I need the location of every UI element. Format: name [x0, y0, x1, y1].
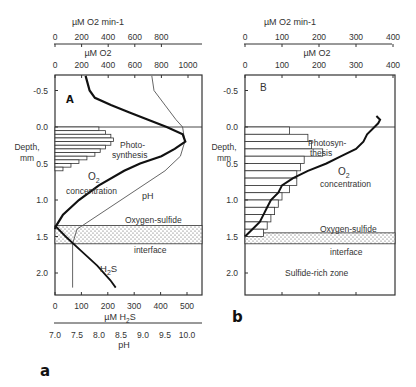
annotation-photosyn: Photosyn-: [308, 138, 346, 148]
annotation-o2: O2: [338, 166, 350, 179]
depth-tick-label: -0.5: [223, 86, 238, 96]
axis-tick-label: 10.0: [179, 330, 196, 340]
axis-tick-label: 9.5: [159, 330, 171, 340]
depth-tick-label: 0.5: [36, 159, 48, 169]
axis-tick-label: 400: [386, 60, 400, 70]
photosynthesis-bar: [55, 164, 71, 168]
photosynthesis-bar: [245, 156, 304, 163]
annotation-interface-bottom: interface: [330, 247, 363, 257]
annotation-concentration: concentration: [66, 186, 117, 196]
axis-tick-label: 800: [154, 32, 168, 42]
axis-tick-label: 400: [386, 32, 400, 42]
axis-label: µM O2: [84, 48, 111, 58]
axis-tick-label: 0: [243, 32, 248, 42]
annotation-ph: pH: [142, 191, 154, 201]
axis-tick-label: 400: [101, 32, 115, 42]
depth-tick-label: 0.0: [226, 122, 238, 132]
axis-tick-label: 0: [53, 60, 58, 70]
axis-tick-label: 8.5: [115, 330, 127, 340]
photosynthesis-bar: [245, 200, 278, 207]
depth-label-line2: mm: [20, 153, 34, 163]
depth-tick-label: -0.5: [33, 86, 48, 96]
depth-axis: -0.50.00.51.01.52.0: [223, 86, 248, 279]
axis-tick-label: 0: [53, 32, 58, 42]
annotation-interface-bottom: interface: [134, 245, 167, 255]
axis-tick-label: 600: [128, 32, 142, 42]
axis-tick-label: 1000: [179, 60, 198, 70]
annotation-o2: O2: [88, 171, 100, 184]
axis-label-h2s: µM H2S: [104, 312, 135, 324]
panel-b-letter: B: [260, 82, 267, 93]
panel-a: µM O2 min-1 0200400600800 µM O2 02004006…: [14, 17, 202, 380]
photosynthesis-bar: [55, 156, 87, 160]
depth-tick-label: 1.0: [226, 195, 238, 205]
depth-tick-label: 0.0: [36, 122, 48, 132]
depth-tick-label: 1.0: [36, 195, 48, 205]
photosynthesis-bar: [245, 185, 289, 192]
axis-tick-label: 200: [75, 60, 89, 70]
axis-tick-label: 300: [127, 301, 141, 311]
photosynthesis-bar: [245, 134, 308, 141]
depth-tick-label: 2.0: [226, 268, 238, 278]
axis-tick-label: 600: [128, 60, 142, 70]
figure-label-a: a: [40, 362, 50, 380]
axis-tick-label: 300: [349, 60, 363, 70]
annotation-h2s: H2S: [100, 263, 117, 276]
photosynthesis-bar: [245, 127, 289, 134]
photosynthesis-bar: [55, 145, 106, 149]
axis-tick-label: 400: [101, 60, 115, 70]
axis-tick-label: 400: [154, 301, 168, 311]
axis-tick-label: 9.0: [137, 330, 149, 340]
photosynthesis-bar: [245, 164, 301, 171]
axis-tick-label: 100: [74, 301, 88, 311]
photosynthesis-bar: [245, 207, 275, 214]
depth-tick-label: 1.5: [36, 232, 48, 242]
panel-a-letter: A: [66, 94, 74, 105]
figure-label-b: b: [232, 308, 243, 326]
depth-label-line2: mm: [217, 153, 231, 163]
photosynthesis-bar: [55, 142, 111, 146]
axis-tick-label: 8.0: [93, 330, 105, 340]
axis-tick-label: 200: [312, 32, 326, 42]
axis-label: µM O2: [303, 48, 330, 58]
photosynthesis-bar: [55, 153, 95, 157]
annotation-photo: Photo-: [120, 140, 145, 150]
axis-label: µM O2 min-1: [72, 17, 124, 27]
annotation-synthesis: synthesis: [112, 150, 147, 160]
photosynthesis-bars: [55, 127, 114, 171]
axis-tick-label: 200: [101, 301, 115, 311]
panel-a-top-axis-rate: µM O2 min-1 0200400600800: [53, 17, 202, 47]
photosynthesis-bar: [245, 171, 297, 178]
photosynthesis-bar: [55, 160, 79, 164]
photosynthesis-bar: [55, 149, 100, 153]
axis-tick-label: 300: [349, 32, 363, 42]
panel-a-top-axis-o2: µM O2 02004006008001000: [53, 48, 198, 78]
oxygen-sulfide-interface-band: [55, 226, 202, 244]
axis-tick-label: 200: [312, 60, 326, 70]
photosynthesis-bar: [55, 167, 63, 171]
depth-label-line1: Depth,: [211, 142, 236, 152]
axis-label: µM O2 min-1: [264, 17, 316, 27]
photosynthesis-bar: [55, 131, 106, 135]
axis-tick-label: 7.0: [49, 330, 61, 340]
axis-tick-label: 7.5: [71, 330, 83, 340]
axis-label-ph: pH: [118, 340, 130, 350]
annotation-sulfide-rich-zone: Sulfide-rich zone: [285, 268, 349, 278]
depth-label-line1: Depth,: [14, 142, 39, 152]
panel-a-plot-frame: [55, 75, 202, 295]
annotation-interface-top: Oxygen-sulfide: [125, 215, 182, 225]
axis-tick-label: 100: [275, 60, 289, 70]
panel-a-bottom-axis-ph: 7.07.58.08.59.09.510.0: [49, 323, 195, 340]
photosynthesis-bar: [55, 127, 99, 131]
annotation-concentration: concentration: [320, 179, 371, 189]
axis-tick-label: 0: [53, 301, 58, 311]
photosynthesis-bar: [55, 138, 114, 142]
oxygen-sulfide-interface-band: [245, 233, 395, 244]
photosynthesis-bar: [245, 215, 271, 222]
depth-axis: -0.50.00.51.01.52.0: [33, 86, 58, 279]
axis-tick-label: 0: [243, 60, 248, 70]
depth-tick-label: 2.0: [36, 268, 48, 278]
annotation-interface-top: Oxygen-sulfide: [320, 224, 377, 234]
panel-b-top-axis-rate: 0100200300400: [243, 32, 401, 47]
axis-tick-label: 200: [75, 32, 89, 42]
